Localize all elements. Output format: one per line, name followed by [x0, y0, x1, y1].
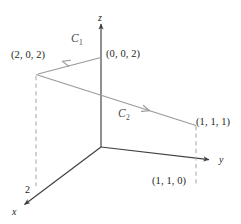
curve-label-C2: C2 [118, 108, 130, 120]
curve-label-C1-text: C [71, 32, 79, 44]
z-axis-label: z [98, 13, 102, 23]
point-label-1-1-1: (1, 1, 1) [196, 117, 230, 128]
point-label-1-1-0: (1, 1, 0) [152, 176, 186, 187]
point-label-2-0-2: (2, 0, 2) [11, 50, 45, 61]
x-axis-tick-label-2: 2 [25, 185, 30, 195]
curve-label-C2-text: C [118, 107, 126, 119]
point-label-0-0-2: (0, 0, 2) [106, 49, 140, 60]
curve-label-C2-subscript: 2 [126, 113, 130, 122]
curve-C1-arrowhead [62, 58, 71, 66]
vector-field-curve-diagram: z y x 2 (0, 0, 2) (2, 0, 2) (1, 1, 1) (1… [0, 0, 241, 224]
curve-C2-segment [36, 75, 196, 126]
x-axis-label: x [12, 207, 17, 217]
curve-label-C1: C1 [71, 33, 83, 45]
y-axis-line [101, 147, 209, 160]
curve-label-C1-subscript: 1 [79, 38, 83, 47]
y-axis-label: y [219, 155, 224, 165]
